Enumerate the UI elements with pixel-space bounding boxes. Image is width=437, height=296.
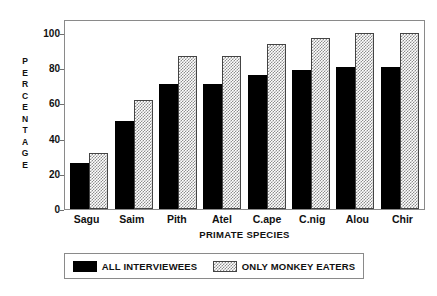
bar-group bbox=[336, 21, 374, 209]
bar-pith-series1 bbox=[159, 84, 178, 209]
x-axis-tick-labels: SaguSaimPithAtelC.apeC.nigAlouChir bbox=[64, 213, 425, 229]
x-axis-tick-label: Alou bbox=[335, 213, 379, 225]
bar-sagu-series1 bbox=[70, 163, 89, 209]
x-axis-tick-label: Atel bbox=[200, 213, 244, 225]
bar-group bbox=[381, 21, 419, 209]
bar-c-ape-series2 bbox=[267, 44, 286, 209]
bar-saim-series1 bbox=[115, 121, 134, 209]
y-axis-tick-label: 60 bbox=[34, 98, 60, 109]
bar-group bbox=[292, 21, 330, 209]
legend-item-all-interviewees: ALL INTERVIEWEES bbox=[73, 261, 198, 272]
bar-chart-figure: P E R C E N T A G E 020406080100 SaguSai… bbox=[0, 0, 437, 296]
bar-alou-series1 bbox=[336, 67, 355, 210]
y-axis-tick-label: 20 bbox=[34, 169, 60, 180]
bar-c-ape-series1 bbox=[248, 75, 267, 209]
bar-sagu-series2 bbox=[89, 153, 108, 209]
y-axis-tick-mark bbox=[58, 210, 64, 211]
x-axis-tick-label: Chir bbox=[380, 213, 424, 225]
legend-label: ALL INTERVIEWEES bbox=[102, 261, 198, 272]
solid-black-swatch bbox=[73, 261, 97, 272]
x-axis-tick-label: Sagu bbox=[65, 213, 109, 225]
hatched-gray-swatch bbox=[213, 261, 237, 272]
y-axis-tick-mark bbox=[58, 69, 64, 70]
y-axis-tick-label: 40 bbox=[34, 134, 60, 145]
y-axis-tick-labels: 020406080100 bbox=[30, 0, 60, 296]
x-axis-tick-label: C.nig bbox=[290, 213, 334, 225]
y-axis-tick-label: 80 bbox=[34, 63, 60, 74]
y-axis-tick-mark bbox=[58, 34, 64, 35]
bar-group bbox=[70, 21, 108, 209]
bar-group bbox=[159, 21, 197, 209]
legend: ALL INTERVIEWEES ONLY MONKEY EATERS bbox=[64, 253, 364, 279]
bar-c-nig-series2 bbox=[311, 38, 330, 209]
y-axis-tick-mark bbox=[58, 140, 64, 141]
bar-atel-series2 bbox=[222, 56, 241, 209]
bar-c-nig-series1 bbox=[292, 70, 311, 209]
bar-chir-series2 bbox=[400, 33, 419, 209]
y-axis-tick-label: 0 bbox=[34, 204, 60, 215]
bar-alou-series2 bbox=[355, 33, 374, 209]
x-axis-title: PRIMATE SPECIES bbox=[64, 229, 425, 240]
legend-label: ONLY MONKEY EATERS bbox=[242, 261, 356, 272]
y-axis-tick-label: 100 bbox=[34, 28, 60, 39]
bar-pith-series2 bbox=[178, 56, 197, 209]
y-axis-tick-mark bbox=[58, 104, 64, 105]
bar-group bbox=[248, 21, 286, 209]
plot-area bbox=[64, 20, 425, 210]
bar-atel-series1 bbox=[203, 84, 222, 209]
bar-group bbox=[115, 21, 153, 209]
bar-groups bbox=[65, 21, 424, 209]
bar-chir-series1 bbox=[381, 67, 400, 210]
bar-saim-series2 bbox=[134, 100, 153, 209]
x-axis-tick-label: C.ape bbox=[245, 213, 289, 225]
x-axis-tick-label: Pith bbox=[155, 213, 199, 225]
legend-item-only-monkey-eaters: ONLY MONKEY EATERS bbox=[213, 261, 356, 272]
y-axis-tick-mark bbox=[58, 175, 64, 176]
x-axis-tick-label: Saim bbox=[110, 213, 154, 225]
bar-group bbox=[203, 21, 241, 209]
